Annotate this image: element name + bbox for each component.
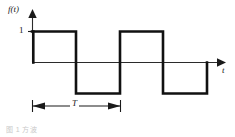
square-wave-figure: f(t) t 1 T 图 1 方波	[0, 0, 235, 137]
figure-caption: 图 1 方波	[6, 126, 114, 134]
period-dimension-label: T	[70, 99, 79, 108]
y-axis-label: f(t)	[8, 5, 19, 14]
f-axis-arrowhead	[28, 9, 36, 18]
amplitude-value-label: 1	[19, 26, 24, 35]
period-dimension-right-arrowhead	[108, 102, 121, 109]
waveform-plot	[0, 0, 235, 137]
period-dimension-left-arrowhead	[33, 102, 46, 109]
x-axis-label: t	[222, 66, 225, 75]
